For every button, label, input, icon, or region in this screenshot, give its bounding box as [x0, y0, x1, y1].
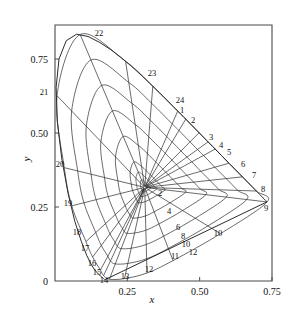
y-tick-label: 0	[43, 276, 48, 287]
spoke-label: 7	[252, 170, 256, 180]
spoke-label: 9	[264, 203, 268, 213]
y-axis-title: y	[20, 156, 32, 162]
spoke-label: 11	[171, 251, 179, 261]
spoke-label: 6	[241, 159, 245, 169]
spoke-label: 21	[40, 87, 49, 97]
white-point-marker	[144, 186, 146, 188]
spoke-label: 12	[145, 264, 154, 274]
spoke-label: 16	[88, 258, 97, 268]
contour-label: 2	[158, 188, 162, 198]
x-tick-label: 0.25	[119, 286, 137, 297]
spoke-label: 24	[176, 95, 185, 105]
y-tick-label: 0.50	[31, 128, 49, 139]
x-tick-label: 0.75	[263, 286, 281, 297]
spoke-label: 23	[148, 68, 157, 78]
spoke-label: 17	[81, 243, 90, 253]
spoke-label: 13	[121, 271, 130, 281]
chromaticity-plot: 0.250.500.7500.250.500.75 12345678910111…	[0, 0, 296, 318]
x-axis-title: x	[149, 293, 155, 305]
spoke-label: 10	[214, 228, 223, 238]
spoke-label: 8	[261, 184, 265, 194]
spoke-label: 18	[73, 227, 82, 237]
y-tick-label: 0.75	[31, 54, 49, 65]
spoke-label: 1	[180, 105, 184, 115]
y-tick-label: 0.25	[31, 202, 49, 213]
contour-label: 12	[189, 247, 198, 257]
spoke-label: 15	[93, 267, 102, 277]
spoke-label: 19	[64, 198, 73, 208]
spoke-label: 22	[95, 28, 104, 38]
spoke-label: 3	[209, 132, 213, 142]
contour-label: 6	[176, 222, 180, 232]
chromaticity-figure: 0.250.500.7500.250.500.75 12345678910111…	[0, 0, 296, 318]
spoke-label: 5	[227, 147, 231, 157]
spoke-label: 20	[56, 159, 65, 169]
x-tick-label: 0.50	[191, 286, 209, 297]
spoke-label: 2	[191, 115, 195, 125]
